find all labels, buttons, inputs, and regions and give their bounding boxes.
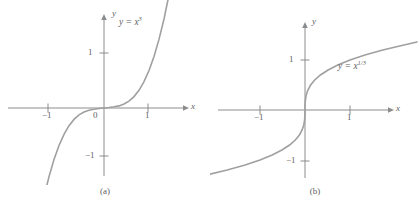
figure-panel-b: y x −1 1 1 −1 y = x1/3 (b) xyxy=(210,0,420,209)
y-axis-arrow-a xyxy=(101,14,107,20)
y-tick-label-pos1-b: 1 xyxy=(289,55,294,64)
figure-panel-a: y x 0 −1 1 1 −1 y = x3 (a) xyxy=(0,0,210,209)
y-tick-label-neg1-b: −1 xyxy=(286,156,296,165)
x-axis-label-a: x xyxy=(191,102,195,111)
equation-label-b: y = x1/3 xyxy=(338,62,366,72)
origin-label-a: 0 xyxy=(93,111,98,120)
x-axis-arrow-b xyxy=(388,107,394,113)
x-tick-label-pos1-a: 1 xyxy=(145,111,150,120)
equation-exponent-b: 1/3 xyxy=(358,59,366,66)
x-tick-label-neg1-b: −1 xyxy=(254,113,264,122)
x-tick-label-pos1-b: 1 xyxy=(347,113,352,122)
caption-a: (a) xyxy=(0,186,210,196)
x-axis-arrow-a xyxy=(183,105,189,111)
y-axis-label-a: y xyxy=(112,9,116,18)
x-tick-label-neg1-a: −1 xyxy=(42,111,52,120)
y-tick-label-neg1-a: −1 xyxy=(85,151,95,160)
equation-exponent-a: 3 xyxy=(139,15,142,22)
y-axis-label-b: y xyxy=(312,17,316,26)
plot-a xyxy=(0,0,210,185)
equation-label-a: y = x3 xyxy=(119,18,142,28)
equation-text-b: y = x xyxy=(338,61,358,71)
caption-b: (b) xyxy=(210,186,420,196)
x-axis-label-b: x xyxy=(396,104,400,113)
equation-text-a: y = x xyxy=(119,17,139,27)
plot-b xyxy=(210,0,420,185)
y-tick-label-pos1-a: 1 xyxy=(88,48,93,57)
y-axis-arrow-b xyxy=(302,22,308,28)
